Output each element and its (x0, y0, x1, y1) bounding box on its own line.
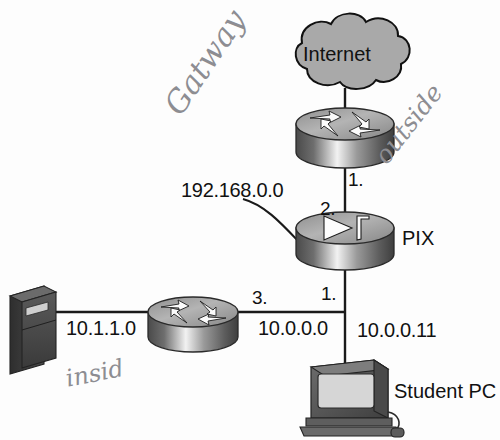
interface-number-pix-inside: 1. (321, 284, 336, 303)
cloud-label-internet: Internet (303, 44, 371, 64)
desktop-pc-icon (300, 360, 404, 437)
network-label-outside: 192.168.0.0 (181, 180, 283, 200)
firewall-icon-pix (296, 212, 394, 270)
server-icon (10, 286, 56, 374)
interface-number-pix-outside: 2. (320, 199, 335, 218)
router-icon-inside (148, 297, 238, 352)
network-label-dmz: 10.0.0.0 (258, 318, 328, 338)
interface-number-router-inside: 3. (252, 288, 267, 307)
network-label-inside: 10.1.1.0 (66, 318, 136, 338)
leader-line-outside-net (243, 199, 300, 243)
network-diagram-canvas: Internet 192.168.0.0 1. 2. PIX 1. 3. 10.… (0, 0, 500, 440)
address-label-student-pc: 10.0.0.11 (357, 320, 436, 340)
interface-number-router-to-pix: 1. (348, 170, 363, 189)
device-label-student-pc: Student PC (394, 381, 496, 401)
device-label-pix: PIX (402, 228, 434, 248)
